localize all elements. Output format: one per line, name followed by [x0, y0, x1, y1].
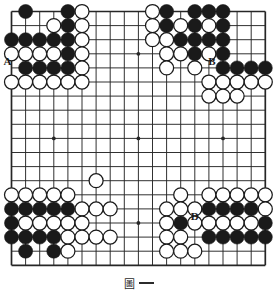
white-stone[interactable] — [160, 244, 174, 258]
go-board[interactable]: ABD — [0, 0, 278, 272]
white-stone[interactable] — [103, 230, 117, 244]
white-stone[interactable] — [103, 202, 117, 216]
white-stone[interactable] — [174, 244, 188, 258]
white-stone[interactable] — [160, 216, 174, 230]
white-stone[interactable] — [258, 75, 272, 89]
go-board-canvas[interactable]: ABD — [0, 0, 278, 272]
black-stone[interactable] — [47, 33, 61, 47]
white-stone[interactable] — [75, 61, 89, 75]
white-stone[interactable] — [19, 188, 33, 202]
black-stone[interactable] — [258, 61, 272, 75]
black-stone[interactable] — [160, 5, 174, 19]
white-stone[interactable] — [160, 202, 174, 216]
white-stone[interactable] — [146, 19, 160, 33]
white-stone[interactable] — [33, 75, 47, 89]
black-stone[interactable] — [33, 33, 47, 47]
white-stone[interactable] — [174, 47, 188, 61]
white-stone[interactable] — [174, 188, 188, 202]
white-stone[interactable] — [5, 188, 19, 202]
white-stone[interactable] — [33, 188, 47, 202]
white-stone[interactable] — [202, 75, 216, 89]
white-stone[interactable] — [146, 33, 160, 47]
white-stone[interactable] — [75, 19, 89, 33]
black-stone[interactable] — [230, 230, 244, 244]
white-stone[interactable] — [174, 19, 188, 33]
black-stone[interactable] — [230, 61, 244, 75]
white-stone[interactable] — [75, 75, 89, 89]
white-stone[interactable] — [75, 230, 89, 244]
black-stone[interactable] — [258, 216, 272, 230]
white-stone[interactable] — [33, 216, 47, 230]
black-stone[interactable] — [216, 19, 230, 33]
white-stone[interactable] — [202, 216, 216, 230]
black-stone[interactable] — [230, 202, 244, 216]
black-stone[interactable] — [61, 47, 75, 61]
white-stone[interactable] — [230, 75, 244, 89]
white-stone[interactable] — [47, 19, 61, 33]
black-stone[interactable] — [244, 61, 258, 75]
black-stone[interactable] — [33, 202, 47, 216]
black-stone[interactable] — [216, 202, 230, 216]
black-stone[interactable] — [188, 19, 202, 33]
white-stone[interactable] — [19, 216, 33, 230]
white-stone[interactable] — [61, 244, 75, 258]
white-stone[interactable] — [89, 230, 103, 244]
white-stone[interactable] — [258, 202, 272, 216]
black-stone[interactable] — [202, 33, 216, 47]
black-stone[interactable] — [61, 202, 75, 216]
white-stone[interactable] — [230, 89, 244, 103]
black-stone[interactable] — [5, 230, 19, 244]
black-stone[interactable] — [47, 244, 61, 258]
white-stone[interactable] — [75, 202, 89, 216]
white-stone[interactable] — [61, 230, 75, 244]
white-stone[interactable] — [258, 188, 272, 202]
white-stone[interactable] — [202, 89, 216, 103]
white-stone[interactable] — [244, 188, 258, 202]
black-stone[interactable] — [216, 5, 230, 19]
white-stone[interactable] — [75, 47, 89, 61]
white-stone[interactable] — [160, 33, 174, 47]
black-stone[interactable] — [61, 61, 75, 75]
black-stone[interactable] — [19, 33, 33, 47]
black-stone[interactable] — [244, 230, 258, 244]
black-stone[interactable] — [33, 61, 47, 75]
black-stone[interactable] — [47, 230, 61, 244]
white-stone[interactable] — [216, 89, 230, 103]
white-stone[interactable] — [188, 244, 202, 258]
white-stone[interactable] — [202, 188, 216, 202]
white-stone[interactable] — [244, 216, 258, 230]
black-stone[interactable] — [5, 202, 19, 216]
black-stone[interactable] — [160, 19, 174, 33]
white-stone[interactable] — [47, 47, 61, 61]
white-stone[interactable] — [244, 75, 258, 89]
black-stone[interactable] — [202, 230, 216, 244]
white-stone[interactable] — [61, 216, 75, 230]
black-stone[interactable] — [47, 202, 61, 216]
black-stone[interactable] — [202, 202, 216, 216]
black-stone[interactable] — [61, 33, 75, 47]
black-stone[interactable] — [216, 61, 230, 75]
white-stone[interactable] — [5, 75, 19, 89]
white-stone[interactable] — [146, 5, 160, 19]
white-stone[interactable] — [61, 188, 75, 202]
black-stone[interactable] — [188, 47, 202, 61]
black-stone[interactable] — [174, 33, 188, 47]
white-stone[interactable] — [47, 188, 61, 202]
black-stone[interactable] — [19, 202, 33, 216]
black-stone[interactable] — [258, 230, 272, 244]
white-stone[interactable] — [33, 47, 47, 61]
black-stone[interactable] — [216, 230, 230, 244]
white-stone[interactable] — [230, 188, 244, 202]
white-stone[interactable] — [160, 47, 174, 61]
black-stone[interactable] — [174, 216, 188, 230]
black-stone[interactable] — [19, 5, 33, 19]
black-stone[interactable] — [188, 5, 202, 19]
white-stone[interactable] — [160, 230, 174, 244]
white-stone[interactable] — [61, 75, 75, 89]
black-stone[interactable] — [19, 244, 33, 258]
black-stone[interactable] — [216, 33, 230, 47]
white-stone[interactable] — [216, 188, 230, 202]
black-stone[interactable] — [216, 47, 230, 61]
black-stone[interactable] — [19, 61, 33, 75]
white-stone[interactable] — [216, 75, 230, 89]
